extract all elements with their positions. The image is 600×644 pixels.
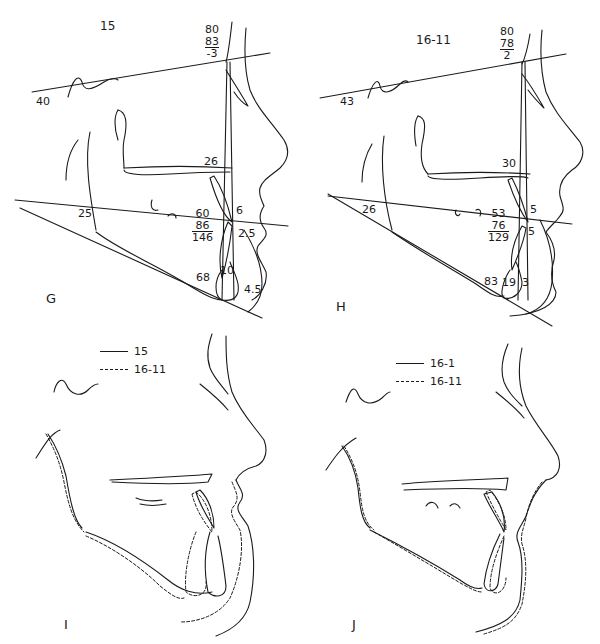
lip-label: 2.5 (238, 228, 256, 239)
interincisal-angle: 146 (192, 231, 213, 244)
interincisal-fraction: 60 86 146 (192, 208, 213, 244)
cephalometric-tracing-h (300, 0, 600, 322)
anb-value: -3 (207, 47, 218, 60)
legend-label: 16-11 (134, 363, 166, 376)
lower-incisor-mp-label: 68 (196, 272, 210, 283)
interincisal-angle: 129 (488, 231, 509, 244)
panel-j-superimposition: 16-1 16-11 J (300, 322, 600, 644)
legend-label: 15 (134, 345, 148, 358)
occlusal-angle-label: 26 (362, 204, 376, 215)
dashed-line-swatch (396, 381, 424, 382)
legend-label: 16-1 (430, 357, 455, 370)
lip-label: 5 (528, 226, 535, 237)
age-label: 16-11 (416, 34, 451, 46)
snb-value: 83 (205, 35, 219, 48)
sn-mp-angle-label: 43 (340, 96, 354, 107)
legend-item-solid: 16-1 (396, 354, 462, 372)
chin-label: 19 (502, 277, 516, 288)
legend: 15 16-11 (100, 342, 166, 378)
legend: 16-1 16-11 (396, 354, 462, 390)
cephalometric-tracing-g (0, 0, 300, 322)
soft-chin-label: 4.5 (244, 284, 262, 295)
panel-letter: J (352, 618, 356, 631)
sn-angle-fraction: 80 83 -3 (205, 24, 219, 60)
legend-item-dashed: 16-11 (396, 372, 462, 390)
palatal-label: 30 (502, 158, 516, 169)
solid-line-swatch (396, 363, 424, 364)
sn-mp-angle-label: 40 (36, 96, 50, 107)
lower-incisor-angle: 86 (196, 219, 210, 232)
age-label: 15 (100, 20, 115, 32)
lower-incisor-mp-label: 83 (484, 276, 498, 287)
chin-label: 10 (220, 265, 234, 276)
panel-g-tracing: 15 80 83 -3 40 26 25 60 86 146 6 2.5 68 … (0, 0, 300, 322)
legend-label: 16-11 (430, 375, 462, 388)
sn-angle-fraction: 80 78 2 (500, 26, 514, 62)
snb-value: 78 (500, 37, 514, 50)
legend-item-solid: 15 (100, 342, 166, 360)
legend-item-dashed: 16-11 (100, 360, 166, 378)
panel-letter: G (46, 292, 56, 305)
panel-h-tracing: 16-11 80 78 2 43 30 26 53 76 129 5 5 83 … (300, 0, 600, 322)
lower-incisor-angle: 76 (492, 219, 506, 232)
dashed-line-swatch (100, 369, 128, 370)
occlusal-angle-label: 25 (78, 208, 92, 219)
interincisal-fraction: 53 76 129 (488, 208, 509, 244)
panel-i-superimposition: 15 16-11 I (0, 322, 300, 644)
soft-chin-label: 3 (522, 277, 529, 288)
palatal-label: 26 (204, 156, 218, 167)
panel-letter: H (336, 300, 346, 313)
panel-letter: I (64, 618, 68, 631)
upper-incisor-label: 5 (530, 204, 537, 215)
anb-value: 2 (504, 49, 511, 62)
solid-line-swatch (100, 351, 128, 352)
upper-incisor-label: 6 (236, 205, 243, 216)
